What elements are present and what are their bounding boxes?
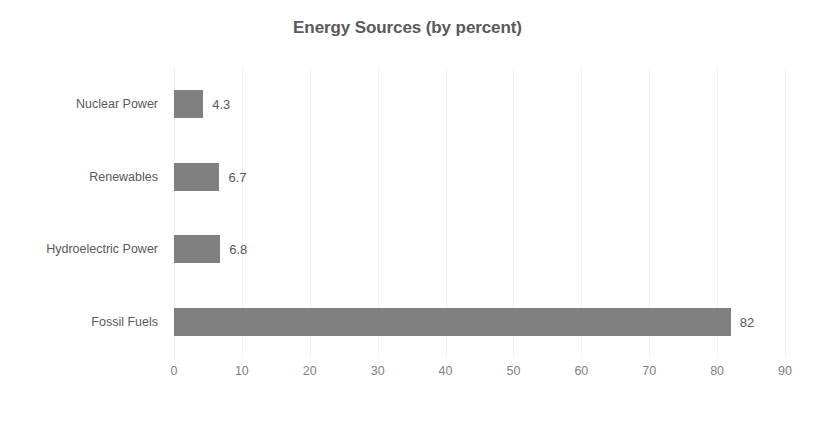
x-tick-label: 10 [235,364,249,378]
category-label: Fossil Fuels [91,315,166,329]
category-label-row: Renewables [0,141,166,214]
chart-title: Energy Sources (by percent) [0,18,815,38]
x-tick-label: 80 [710,364,724,378]
bar-row: 6.7 [174,141,785,214]
plot-area: 4.36.76.882 [174,68,785,358]
x-tick-label: 30 [371,364,385,378]
x-tick-label: 40 [439,364,453,378]
bar[interactable] [174,235,220,263]
x-tick-label: 20 [303,364,317,378]
x-tick-label: 70 [642,364,656,378]
x-tick-label: 60 [574,364,588,378]
bar[interactable] [174,90,203,118]
category-label-row: Fossil Fuels [0,286,166,359]
category-axis-labels: Nuclear PowerRenewablesHydroelectric Pow… [0,68,166,358]
bar-row: 82 [174,286,785,359]
category-label-row: Hydroelectric Power [0,213,166,286]
bars-layer: 4.36.76.882 [174,68,785,358]
bar-value-label: 6.8 [229,242,247,257]
gridline-90 [785,68,786,358]
bar[interactable] [174,163,219,191]
bar-row: 4.3 [174,68,785,141]
bar-value-label: 4.3 [212,97,230,112]
bar-chart: Energy Sources (by percent) 4.36.76.882 … [0,0,815,446]
x-tick-label: 0 [171,364,178,378]
value-axis-labels: 0102030405060708090 [174,364,785,388]
category-label: Nuclear Power [76,97,166,111]
category-label: Renewables [89,170,166,184]
bar-value-label: 82 [740,314,754,329]
category-label-row: Nuclear Power [0,68,166,141]
bar-row: 6.8 [174,213,785,286]
x-tick-label: 90 [778,364,792,378]
category-label: Hydroelectric Power [46,242,166,256]
x-tick-label: 50 [506,364,520,378]
bar[interactable] [174,308,731,336]
bar-value-label: 6.7 [228,169,246,184]
